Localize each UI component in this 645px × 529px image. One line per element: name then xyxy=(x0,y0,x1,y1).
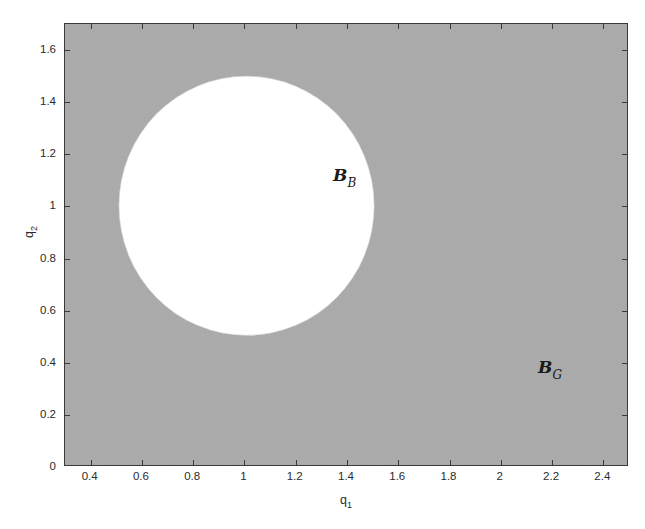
x-tick-top-10 xyxy=(603,24,604,29)
region-label-bb: BB xyxy=(333,167,356,184)
region-shapes xyxy=(65,24,627,465)
x-tick-label-8: 2 xyxy=(497,470,503,482)
region-label-bg: BG xyxy=(538,359,562,376)
x-tick-top-6 xyxy=(398,24,399,29)
x-tick-5 xyxy=(347,460,348,465)
inner-disc-region xyxy=(119,76,374,335)
y-axis-title-base: q xyxy=(22,231,36,238)
x-tick-4 xyxy=(296,460,297,465)
plot-axes-box: BB BG xyxy=(64,23,628,466)
y-tick-label-7: 1.4 xyxy=(20,95,56,107)
x-tick-label-3: 1 xyxy=(240,470,246,482)
y-tick-right-2 xyxy=(622,363,627,364)
x-tick-top-8 xyxy=(501,24,502,29)
y-tick-4 xyxy=(65,259,70,260)
y-tick-label-0: 0 xyxy=(20,460,56,472)
figure-canvas: BB BG 0.40.60.811.21.41.61.822.22.4 00.2… xyxy=(0,0,645,529)
x-tick-2 xyxy=(193,460,194,465)
x-tick-top-2 xyxy=(193,24,194,29)
x-tick-top-9 xyxy=(552,24,553,29)
y-tick-right-7 xyxy=(622,102,627,103)
y-tick-label-3: 0.6 xyxy=(20,304,56,316)
y-tick-7 xyxy=(65,102,70,103)
x-tick-label-7: 1.8 xyxy=(441,470,457,482)
x-tick-10 xyxy=(603,460,604,465)
y-tick-3 xyxy=(65,311,70,312)
y-tick-5 xyxy=(65,206,70,207)
x-axis-title: q1 xyxy=(340,493,352,510)
y-tick-right-8 xyxy=(622,50,627,51)
x-tick-top-1 xyxy=(142,24,143,29)
x-tick-label-5: 1.4 xyxy=(338,470,354,482)
x-tick-top-3 xyxy=(244,24,245,29)
y-tick-label-8: 1.6 xyxy=(20,43,56,55)
x-tick-top-4 xyxy=(296,24,297,29)
x-tick-label-2: 0.8 xyxy=(184,470,200,482)
y-axis-title: q2 xyxy=(22,226,39,238)
x-axis-title-sub: 1 xyxy=(347,500,352,510)
y-tick-label-4: 0.8 xyxy=(20,252,56,264)
x-tick-6 xyxy=(398,460,399,465)
y-tick-2 xyxy=(65,363,70,364)
y-tick-right-1 xyxy=(622,415,627,416)
x-tick-top-5 xyxy=(347,24,348,29)
y-tick-1 xyxy=(65,415,70,416)
y-tick-6 xyxy=(65,154,70,155)
y-tick-label-2: 0.4 xyxy=(20,356,56,368)
region-label-bg-sub: G xyxy=(552,368,562,382)
y-tick-right-6 xyxy=(622,154,627,155)
x-tick-label-1: 0.6 xyxy=(133,470,149,482)
y-tick-right-3 xyxy=(622,311,627,312)
y-tick-label-5: 1 xyxy=(20,199,56,211)
x-tick-9 xyxy=(552,460,553,465)
y-tick-8 xyxy=(65,50,70,51)
y-tick-right-4 xyxy=(622,259,627,260)
x-tick-7 xyxy=(450,460,451,465)
x-tick-label-6: 1.6 xyxy=(389,470,405,482)
x-tick-8 xyxy=(501,460,502,465)
x-axis-title-base: q xyxy=(340,493,347,507)
x-tick-top-7 xyxy=(450,24,451,29)
x-tick-label-10: 2.4 xyxy=(594,470,610,482)
y-tick-label-6: 1.2 xyxy=(20,147,56,159)
x-tick-label-9: 2.2 xyxy=(543,470,559,482)
x-tick-label-0: 0.4 xyxy=(82,470,98,482)
y-tick-label-1: 0.2 xyxy=(20,408,56,420)
x-tick-0 xyxy=(91,460,92,465)
x-tick-3 xyxy=(244,460,245,465)
x-tick-label-4: 1.2 xyxy=(287,470,303,482)
region-label-bb-base: B xyxy=(333,165,347,185)
region-label-bg-base: B xyxy=(538,357,552,377)
region-label-bb-sub: B xyxy=(347,176,356,190)
x-tick-1 xyxy=(142,460,143,465)
x-tick-top-0 xyxy=(91,24,92,29)
y-tick-right-5 xyxy=(622,206,627,207)
y-axis-title-sub: 2 xyxy=(29,226,39,231)
